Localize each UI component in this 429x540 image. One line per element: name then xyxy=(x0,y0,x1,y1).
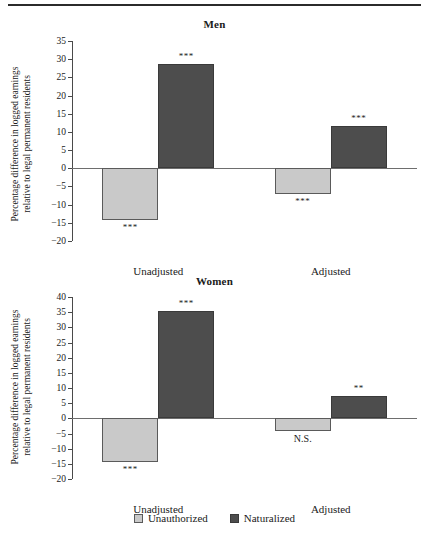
y-axis-tick xyxy=(68,77,72,78)
y-axis-tick xyxy=(68,241,72,242)
significance-annotation: *** xyxy=(123,464,138,474)
y-axis-tick-label: 30 xyxy=(57,322,67,332)
significance-annotation: *** xyxy=(351,113,366,123)
significance-annotation: ** xyxy=(354,383,364,393)
y-axis-label-line1: Percentage difference in logged earnings xyxy=(10,44,22,244)
y-axis-tick xyxy=(68,297,72,298)
y-axis-tick xyxy=(68,223,72,224)
legend-item-naturalized: Naturalized xyxy=(230,512,295,524)
y-axis-tick-label: 35 xyxy=(57,36,67,46)
y-axis-tick-label: 15 xyxy=(57,109,67,119)
panel-title-women: Women xyxy=(0,275,429,287)
bar-naturalized-unadjusted xyxy=(158,311,214,419)
y-axis-tick-label: 15 xyxy=(57,368,67,378)
legend-label-naturalized: Naturalized xyxy=(244,512,295,524)
y-axis-tick-label: 5 xyxy=(61,145,66,155)
y-axis-label-men: Percentage difference in logged earnings… xyxy=(10,44,33,244)
y-axis-tick xyxy=(68,403,72,404)
y-axis-spine-men xyxy=(72,41,73,241)
bar-naturalized-adjusted xyxy=(331,396,387,418)
y-axis-tick-label: 25 xyxy=(57,338,67,348)
chart-panel-women: Women Percentage difference in logged ea… xyxy=(0,272,429,500)
bar-unauthorized-adjusted xyxy=(275,418,331,430)
significance-annotation: *** xyxy=(179,51,194,61)
y-axis-tick xyxy=(68,388,72,389)
y-axis-tick-label: −20 xyxy=(51,474,66,484)
y-axis-tick xyxy=(68,132,72,133)
y-axis-tick xyxy=(68,150,72,151)
significance-annotation: N.S. xyxy=(294,433,312,444)
y-axis-tick xyxy=(68,449,72,450)
plot-area-men: 35302520151050−5−10−15−20******Unadjuste… xyxy=(72,41,417,241)
panel-title-men: Men xyxy=(0,18,429,30)
y-axis-tick-label: 10 xyxy=(57,383,67,393)
legend-item-unauthorized: Unauthorized xyxy=(134,512,208,524)
y-axis-label-line2: relative to legal permanent residents xyxy=(22,44,34,244)
y-axis-tick xyxy=(68,312,72,313)
y-axis-tick-label: 10 xyxy=(57,127,67,137)
y-axis-tick-label: 5 xyxy=(61,398,66,408)
y-axis-tick-label: 0 xyxy=(61,163,66,173)
header-rule xyxy=(8,4,421,6)
y-axis-tick xyxy=(68,205,72,206)
y-axis-tick xyxy=(68,59,72,60)
y-axis-tick xyxy=(68,114,72,115)
y-axis-label-women: Percentage difference in logged earnings… xyxy=(10,292,33,482)
significance-annotation: *** xyxy=(179,298,194,308)
legend-swatch-icon-naturalized xyxy=(230,514,239,523)
y-axis-tick xyxy=(68,358,72,359)
legend-label-unauthorized: Unauthorized xyxy=(148,512,208,524)
y-axis-tick-label: 20 xyxy=(57,91,67,101)
y-axis-tick-label: 25 xyxy=(57,72,67,82)
y-axis-tick-label: −10 xyxy=(51,444,66,454)
y-axis-tick xyxy=(68,41,72,42)
y-axis-tick-label: −15 xyxy=(51,218,66,228)
y-axis-tick-label: −20 xyxy=(51,236,66,246)
bar-unauthorized-unadjusted xyxy=(102,418,158,461)
significance-annotation: *** xyxy=(295,196,310,206)
y-axis-tick-label: −5 xyxy=(56,181,66,191)
bar-naturalized-unadjusted xyxy=(158,64,214,168)
y-axis-spine-women xyxy=(72,297,73,479)
y-axis-tick-label: −5 xyxy=(56,429,66,439)
y-axis-tick xyxy=(68,327,72,328)
y-axis-tick-label: −10 xyxy=(51,200,66,210)
y-axis-label-line2: relative to legal permanent residents xyxy=(22,292,34,482)
chart-legend: Unauthorized Naturalized xyxy=(0,512,429,524)
y-axis-tick-label: 40 xyxy=(57,292,67,302)
y-axis-label-line1: Percentage difference in logged earnings xyxy=(10,292,22,482)
chart-panel-men: Men Percentage difference in logged earn… xyxy=(0,12,429,274)
y-axis-tick xyxy=(68,186,72,187)
y-axis-tick-label: 35 xyxy=(57,307,67,317)
y-axis-tick xyxy=(68,434,72,435)
legend-swatch-icon-unauthorized xyxy=(134,514,143,523)
y-axis-tick xyxy=(68,373,72,374)
bar-naturalized-adjusted xyxy=(331,126,387,168)
y-axis-tick-label: −15 xyxy=(51,459,66,469)
significance-annotation: *** xyxy=(123,222,138,232)
bar-unauthorized-adjusted xyxy=(275,168,331,194)
y-axis-tick-label: 0 xyxy=(61,413,66,423)
plot-area-women: 4035302520151050−5−10−15−20******Unadjus… xyxy=(72,297,417,479)
y-axis-tick-label: 20 xyxy=(57,353,67,363)
y-axis-tick-label: 30 xyxy=(57,54,67,64)
y-axis-tick xyxy=(68,464,72,465)
bar-unauthorized-unadjusted xyxy=(102,168,158,220)
y-axis-tick xyxy=(68,96,72,97)
y-axis-tick xyxy=(68,343,72,344)
y-axis-tick xyxy=(68,479,72,480)
